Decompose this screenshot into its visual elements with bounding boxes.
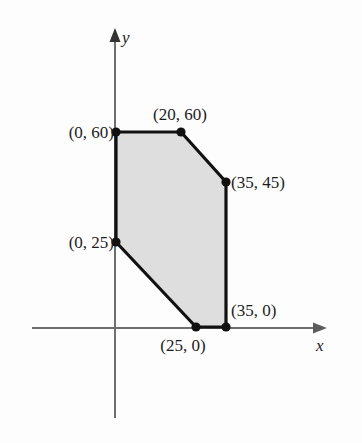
vertex-dot-25-0 xyxy=(191,322,200,331)
figure-canvas: (0, 60) (20, 60) (35, 45) (35, 0) (25, 0… xyxy=(0,0,362,443)
x-axis-label: x xyxy=(316,337,324,354)
vertex-dot-35-0 xyxy=(221,322,230,331)
vertex-label-0-60: (0, 60) xyxy=(69,124,114,141)
vertex-dot-20-60 xyxy=(176,127,185,136)
vertex-label-35-45: (35, 45) xyxy=(231,174,285,191)
vertex-dot-35-45 xyxy=(221,177,230,186)
x-axis-arrow-icon xyxy=(313,323,327,334)
y-axis-label: y xyxy=(122,29,130,46)
coordinate-plane-svg xyxy=(0,0,362,443)
vertex-label-35-0: (35, 0) xyxy=(231,302,276,319)
vertex-label-25-0: (25, 0) xyxy=(160,337,205,354)
vertex-label-20-60: (20, 60) xyxy=(153,106,207,123)
y-axis-arrow-icon xyxy=(110,28,121,42)
vertex-label-0-25: (0, 25) xyxy=(69,234,114,251)
feasible-region-polygon xyxy=(116,132,226,327)
